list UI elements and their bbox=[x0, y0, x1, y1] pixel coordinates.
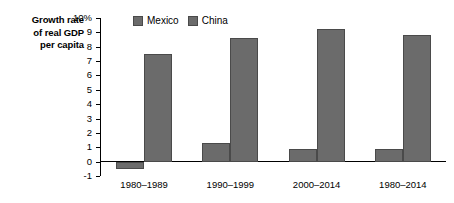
chart-figure: Growth rate of real GDP per capita Mexic… bbox=[0, 0, 454, 203]
bar-china-0 bbox=[144, 54, 172, 162]
y-tick-label: 7 bbox=[40, 56, 92, 66]
bar-china-2 bbox=[317, 29, 345, 161]
y-tick-mark bbox=[96, 176, 100, 177]
y-tick-label: 3 bbox=[40, 114, 92, 124]
bar-china-3 bbox=[403, 35, 431, 161]
bar-mexico-1 bbox=[202, 143, 230, 162]
bar-mexico-0 bbox=[116, 162, 144, 169]
legend-swatch-mexico bbox=[133, 16, 143, 26]
y-tick-mark bbox=[96, 147, 100, 148]
x-category-label: 1980–2014 bbox=[360, 180, 446, 190]
bar-china-1 bbox=[230, 38, 258, 162]
y-tick-label: 10% bbox=[40, 13, 92, 23]
y-tick-mark bbox=[96, 32, 100, 33]
y-tick-mark bbox=[96, 162, 100, 163]
legend-entry-china: China bbox=[188, 15, 228, 26]
y-tick-label: 5 bbox=[40, 85, 92, 95]
y-tick-label: 8 bbox=[40, 42, 92, 52]
y-axis-line bbox=[100, 18, 101, 176]
x-category-label: 2000–2014 bbox=[274, 180, 360, 190]
y-tick-mark bbox=[96, 18, 100, 19]
y-tick-label: 4 bbox=[40, 99, 92, 109]
y-tick-label: 9 bbox=[40, 27, 92, 37]
y-tick-mark bbox=[96, 75, 100, 76]
y-tick-label: 6 bbox=[40, 70, 92, 80]
legend-swatch-china bbox=[188, 16, 198, 26]
chart-legend: Mexico China bbox=[133, 15, 228, 26]
y-tick-mark bbox=[96, 104, 100, 105]
y-tick-mark bbox=[96, 61, 100, 62]
y-tick-label: 2 bbox=[40, 128, 92, 138]
legend-entry-mexico: Mexico bbox=[133, 15, 179, 26]
bar-mexico-2 bbox=[289, 149, 317, 162]
x-category-label: 1990–1999 bbox=[187, 180, 273, 190]
y-tick-mark bbox=[96, 133, 100, 134]
y-tick-mark bbox=[96, 90, 100, 91]
legend-label-china: China bbox=[202, 15, 228, 26]
legend-label-mexico: Mexico bbox=[147, 15, 179, 26]
x-category-label: 1980–1989 bbox=[101, 180, 187, 190]
y-tick-label: -1 bbox=[40, 171, 92, 181]
y-tick-mark bbox=[96, 47, 100, 48]
y-tick-mark bbox=[96, 119, 100, 120]
y-tick-label: 1 bbox=[40, 142, 92, 152]
y-tick-label: 0 bbox=[40, 157, 92, 167]
bar-mexico-3 bbox=[375, 149, 403, 162]
